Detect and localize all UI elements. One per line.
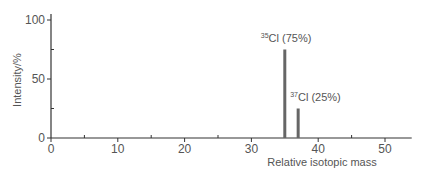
x-tick-label: 40 [312,142,326,156]
isotope-bar [283,50,286,139]
x-tick-label: 10 [111,142,125,156]
x-tick-label: 50 [378,142,392,156]
y-axis-label: Intensity/% [11,53,23,107]
y-tick-label: 0 [38,131,45,145]
isotope-label: 35Cl (75%) [261,32,312,44]
x-tick-label: 30 [245,142,259,156]
mass-spectrum-chart: 05010001020304050 35Cl (75%)37Cl (25%) R… [0,0,428,179]
isotope-bar [297,109,300,139]
x-axis-label: Relative isotopic mass [267,156,377,168]
annotations: 35Cl (75%)37Cl (25%) [261,32,341,103]
x-tick-label: 0 [48,142,55,156]
x-tick-label: 20 [178,142,192,156]
axes: 05010001020304050 [25,13,412,156]
y-tick-label: 100 [25,13,45,27]
isotope-label: 37Cl (25%) [290,91,341,103]
y-tick-label: 50 [32,72,46,86]
